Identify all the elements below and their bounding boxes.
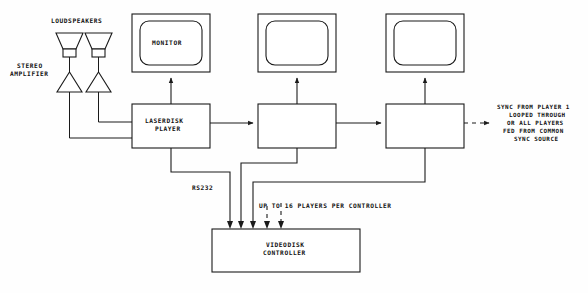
sync-note-line2: LOOPED THROUGH <box>509 112 566 118</box>
stereo-amplifier-right-channel <box>86 72 132 122</box>
rs232-label: RS232 <box>192 184 213 191</box>
laserdisk-player-1: LASERDISK PLAYER <box>132 104 210 148</box>
videodisk-controller-label-line1: VIDEODISK <box>266 241 304 248</box>
laserdisk-player-3 <box>386 104 464 148</box>
loudspeaker-right <box>85 33 112 72</box>
monitor-1-label: MONITOR <box>152 39 182 46</box>
monitor-2 <box>258 14 336 72</box>
diagram-canvas: LOUDSPEAKERS STEREO AMPLIFIER MONITOR <box>0 0 588 293</box>
loudspeakers-label: LOUDSPEAKERS <box>51 17 102 24</box>
laserdisk-player-2 <box>258 104 336 148</box>
monitor-3 <box>386 14 464 72</box>
monitor-1: MONITOR <box>132 14 210 72</box>
sync-note-line4: FED FROM COMMON <box>503 128 564 134</box>
laserdisk-player-label-line1: LASERDISK <box>145 117 183 124</box>
sync-note-line1: SYNC FROM PLAYER 1 <box>497 104 570 110</box>
stereo-amplifier-label-line2: AMPLIFIER <box>10 70 48 77</box>
videodisk-controller: VIDEODISK CONTROLLER <box>212 229 360 272</box>
sync-note-line5: SYNC SOURCE <box>514 136 559 142</box>
wire-player3-to-controller <box>250 148 425 229</box>
videodisk-system-diagram: LOUDSPEAKERS STEREO AMPLIFIER MONITOR <box>0 0 588 293</box>
loudspeaker-left <box>56 33 83 72</box>
videodisk-controller-label-line2: CONTROLLER <box>263 249 306 256</box>
sync-note-line3: OR ALL PLAYERS <box>507 120 564 126</box>
players-per-controller-label: UP TO 16 PLAYERS PER CONTROLLER <box>259 202 392 209</box>
laserdisk-player-label-line2: PLAYER <box>155 125 181 132</box>
stereo-amplifier-label-line1: STEREO <box>17 62 43 69</box>
